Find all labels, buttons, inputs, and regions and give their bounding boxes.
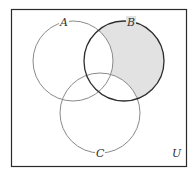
venn-diagram: A B C U	[0, 0, 196, 175]
set-b-label: B	[126, 16, 135, 29]
set-a-label: A	[59, 16, 68, 29]
set-c-label: C	[96, 147, 105, 160]
universe-label: U	[172, 147, 182, 160]
